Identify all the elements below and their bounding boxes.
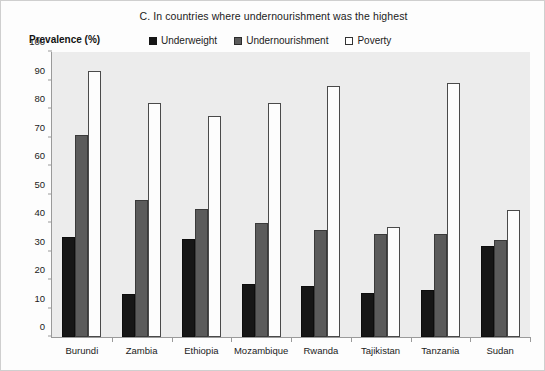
x-axis-tick-mark	[231, 337, 232, 342]
bar-group	[52, 52, 112, 337]
bar-undernourishment	[135, 200, 148, 337]
x-axis-tick-label: Mozambique	[234, 345, 288, 356]
bar-group-bars	[411, 52, 471, 337]
bar-group	[231, 52, 291, 337]
bar-group-bars	[470, 52, 530, 337]
chart-title: C. In countries where undernourishment w…	[1, 10, 545, 22]
y-axis-tick-label: 10	[34, 292, 52, 303]
x-axis-tick-label: Tanzania	[421, 345, 459, 356]
x-axis-tick-mark	[172, 337, 173, 342]
y-axis-tick-label: 90	[34, 64, 52, 75]
bar-poverty	[447, 83, 460, 337]
y-axis-tick-label: 100	[29, 36, 52, 47]
legend-swatch-icon	[149, 37, 157, 45]
bar-poverty	[327, 86, 340, 337]
bar-poverty	[387, 227, 400, 337]
x-axis-tick-mark	[411, 337, 412, 342]
legend-label: Underweight	[161, 35, 217, 46]
bar-undernourishment	[434, 234, 447, 337]
bar-poverty	[507, 210, 520, 337]
bar-underweight	[62, 237, 75, 337]
x-axis-tick-label: Rwanda	[303, 345, 338, 356]
bar-underweight	[361, 293, 374, 337]
y-axis-tick-label: 70	[34, 121, 52, 132]
x-axis-tick-label: Zambia	[126, 345, 158, 356]
legend-item-underweight: Underweight	[149, 35, 217, 46]
bar-poverty	[268, 103, 281, 337]
y-axis-tick-label: 50	[34, 178, 52, 189]
bar-group	[112, 52, 172, 337]
legend-item-poverty: Poverty	[345, 35, 391, 46]
y-axis-tick-label: 40	[34, 207, 52, 218]
x-axis-tick-mark	[470, 337, 471, 342]
y-axis-tick-label: 20	[34, 264, 52, 275]
plot-area: 0102030405060708090100 BurundiZambiaEthi…	[51, 52, 530, 338]
bar-undernourishment	[314, 230, 327, 337]
legend-label: Undernourishment	[246, 35, 328, 46]
bar-underweight	[421, 290, 434, 337]
x-axis-tick-label: Tajikistan	[361, 345, 400, 356]
bar-group-bars	[351, 52, 411, 337]
x-axis-tick-mark	[351, 337, 352, 342]
x-axis-tick-label: Ethiopia	[184, 345, 218, 356]
x-axis-tick-mark	[112, 337, 113, 342]
bar-undernourishment	[75, 135, 88, 337]
bar-group	[351, 52, 411, 337]
y-axis-tick-label: 0	[40, 321, 52, 332]
bar-underweight	[481, 246, 494, 337]
bar-group	[172, 52, 232, 337]
x-axis-tick-label: Burundi	[66, 345, 99, 356]
bar-undernourishment	[374, 234, 387, 337]
x-axis-tick-label: Sudan	[486, 345, 513, 356]
bar-undernourishment	[255, 223, 268, 337]
x-axis-tick-mark	[291, 337, 292, 342]
legend-label: Poverty	[357, 35, 391, 46]
bar-undernourishment	[195, 209, 208, 337]
bar-group	[291, 52, 351, 337]
chart-legend: Underweight Undernourishment Poverty	[149, 35, 391, 46]
bar-group-bars	[291, 52, 351, 337]
legend-swatch-icon	[345, 37, 353, 45]
legend-swatch-icon	[234, 37, 242, 45]
bar-group-bars	[172, 52, 232, 337]
bar-poverty	[208, 116, 221, 337]
bar-underweight	[301, 286, 314, 337]
bar-underweight	[242, 284, 255, 337]
y-axis-tick-label: 30	[34, 235, 52, 246]
bar-poverty	[88, 71, 101, 337]
bar-underweight	[122, 294, 135, 337]
bar-group	[411, 52, 471, 337]
bar-poverty	[148, 103, 161, 337]
bar-group-bars	[231, 52, 291, 337]
bar-undernourishment	[494, 240, 507, 337]
x-axis-tick-mark	[530, 337, 531, 342]
chart-figure: C. In countries where undernourishment w…	[0, 0, 545, 371]
bar-group-bars	[112, 52, 172, 337]
legend-item-undernourishment: Undernourishment	[234, 35, 328, 46]
bar-underweight	[182, 239, 195, 337]
bar-group	[470, 52, 530, 337]
y-axis-tick-label: 60	[34, 150, 52, 161]
y-axis-tick-label: 80	[34, 93, 52, 104]
bar-group-bars	[52, 52, 112, 337]
